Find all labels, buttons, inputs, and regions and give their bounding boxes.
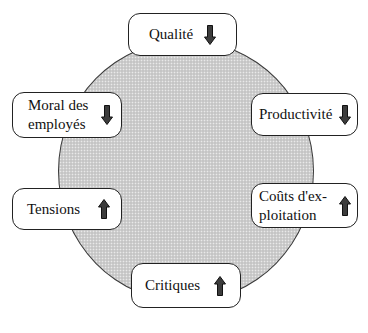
arrow-up-icon <box>214 276 226 296</box>
node-label: Qualité <box>149 25 193 44</box>
node-label: Moral des employés <box>28 96 88 134</box>
node-critiques: Critiques <box>131 263 241 308</box>
arrow-up-icon <box>98 199 110 219</box>
node-label: Coûts d'ex- ploitation <box>259 187 327 225</box>
cycle-diagram: Qualité Productivité Coûts d'ex- ploitat… <box>0 0 368 333</box>
arrow-up-icon <box>339 196 351 216</box>
arrow-down-icon <box>101 105 113 125</box>
arrow-down-icon <box>339 105 351 125</box>
node-productivite: Productivité <box>251 93 358 136</box>
node-label: Productivité <box>259 105 332 124</box>
arrow-down-icon <box>204 25 216 45</box>
node-tensions: Tensions <box>12 188 122 230</box>
node-label: Tensions <box>27 200 80 219</box>
node-qualite: Qualité <box>128 13 237 56</box>
node-couts-exploitation: Coûts d'ex- ploitation <box>251 183 358 228</box>
node-label: Critiques <box>145 276 200 295</box>
node-moral-employes: Moral des employés <box>12 92 122 138</box>
